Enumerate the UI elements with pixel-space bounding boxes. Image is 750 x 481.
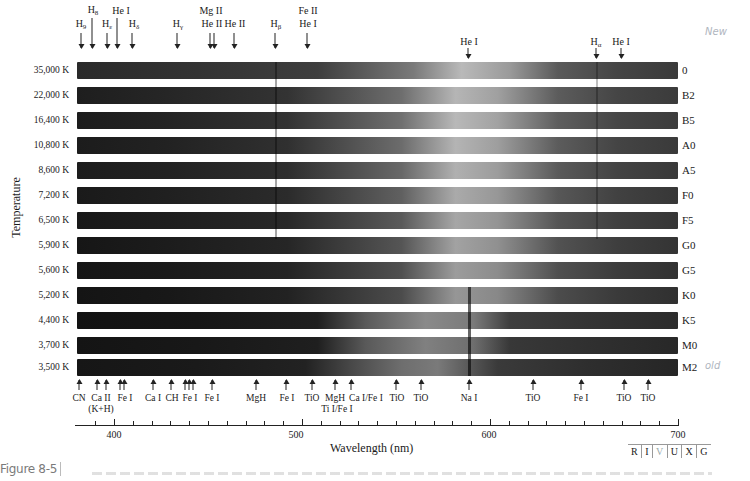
na-i-absorption-line	[468, 287, 471, 376]
arrow-up-icon	[256, 380, 257, 390]
spectrum-band-2	[77, 112, 678, 129]
temperature-label: 7,200 K	[38, 190, 69, 200]
label-mgh: MgH	[325, 393, 345, 403]
arrow-down-icon	[107, 33, 108, 48]
temperature-label: 3,700 K	[38, 340, 69, 350]
arrow-down-icon	[214, 33, 215, 48]
label-fe-i: Fe I	[279, 393, 294, 403]
wavelength-band-legend: R I V U X G	[628, 444, 711, 458]
h-alpha-absorption-line	[596, 62, 598, 239]
arrow-up-icon	[153, 380, 154, 390]
tick-label-600: 600	[482, 429, 497, 440]
arrow-down-icon	[621, 48, 622, 58]
x-axis-tick	[565, 421, 566, 426]
spectral-class-label: B2	[682, 89, 695, 101]
arrow-up-icon	[106, 380, 107, 390]
arrow-up-icon	[212, 380, 213, 390]
x-axis-tick	[95, 421, 96, 426]
label-fe-i: Fe I	[117, 393, 132, 403]
temperature-label: 22,000 K	[34, 90, 69, 100]
x-axis-tick	[584, 421, 585, 426]
label-h-beta: Hβ	[271, 18, 282, 33]
tick-label-500: 500	[289, 429, 304, 440]
x-axis-tick	[622, 421, 623, 426]
label-h9: H9	[76, 18, 87, 33]
x-axis-tick	[452, 421, 453, 426]
x-axis-tick	[659, 421, 660, 426]
label-k-h: (K+H)	[88, 404, 113, 414]
x-axis-tick	[603, 421, 604, 426]
label-ca-i-fe-i: Ca I/Fe I	[349, 393, 383, 403]
band-v: V	[653, 445, 668, 458]
x-axis-tick	[114, 419, 115, 426]
spectrum-band-7	[77, 237, 678, 254]
label-ti-i-fe-i: Ti I/Fe I	[321, 404, 352, 414]
x-axis-tick	[509, 421, 510, 426]
label-h8: H8	[88, 4, 99, 19]
temperature-label: 4,400 K	[38, 315, 69, 325]
temperature-label: 5,900 K	[38, 240, 69, 250]
label-na-i: Na I	[461, 393, 478, 403]
spectral-class-label: 0	[682, 64, 688, 76]
label-ch: CH	[165, 393, 178, 403]
arrow-up-icon	[171, 380, 172, 390]
band-i: I	[642, 445, 653, 458]
x-axis-tick	[227, 421, 228, 426]
x-axis-tick	[264, 421, 265, 426]
spectral-class-label: K5	[682, 314, 695, 326]
x-axis-tick	[640, 421, 641, 426]
label-mg-ii: Mg II	[199, 5, 222, 16]
arrow-up-icon	[79, 380, 80, 390]
caption-text-faded	[92, 472, 712, 475]
tick-label-400: 400	[107, 429, 122, 440]
spectrum-band-0	[77, 62, 678, 79]
h-beta-absorption-line	[275, 62, 277, 239]
arrow-up-icon	[533, 380, 534, 390]
arrow-down-icon	[81, 33, 82, 48]
temperature-label: 10,800 K	[34, 140, 69, 150]
arrow-down-icon	[92, 18, 93, 48]
arrow-up-icon	[97, 380, 98, 390]
handwritten-note-new: New	[705, 26, 727, 37]
x-axis-tick	[678, 419, 679, 426]
label-he-i: He I	[112, 5, 130, 16]
label-ca-i: Ca I	[145, 393, 161, 403]
handwritten-note-old: old	[705, 360, 720, 371]
x-axis-tick	[546, 421, 547, 426]
x-axis-tick	[471, 421, 472, 426]
x-axis-tick	[396, 421, 397, 426]
temperature-label: 5,600 K	[38, 265, 69, 275]
label-fe-i: Fe I	[573, 393, 588, 403]
band-u: U	[668, 445, 683, 458]
arrow-down-icon	[234, 33, 235, 48]
label-tio: TiO	[526, 393, 541, 403]
label-h-delta: Hδ	[129, 18, 140, 33]
spectral-class-label: G0	[682, 239, 695, 251]
spectrum-band-1	[77, 87, 678, 104]
temperature-label: 16,400 K	[34, 115, 69, 125]
arrow-down-icon	[275, 33, 276, 48]
arrow-down-icon	[177, 33, 178, 48]
arrow-up-icon	[124, 380, 125, 390]
x-axis-tick	[246, 421, 247, 426]
x-axis-tick	[170, 421, 171, 426]
temperature-label: 6,500 K	[38, 215, 69, 225]
arrow-up-icon	[351, 380, 352, 390]
arrow-down-icon	[307, 33, 308, 48]
spectral-class-label: F5	[682, 214, 694, 226]
arrow-down-icon	[132, 33, 133, 48]
label-tio: TiO	[641, 393, 656, 403]
label-tio: TiO	[414, 393, 429, 403]
label-he-ii: He II	[202, 18, 223, 29]
label-he-i: He I	[612, 36, 630, 47]
x-axis-tick	[133, 421, 134, 426]
x-axis-tick	[528, 421, 529, 426]
x-axis-tick	[152, 421, 153, 426]
x-axis-tick	[208, 421, 209, 426]
figure-caption-label: Figure 8-5	[0, 462, 61, 476]
arrow-up-icon	[286, 380, 287, 390]
y-axis-label: Temperature	[9, 177, 24, 237]
label-he-i: He I	[299, 18, 317, 29]
label-cn: CN	[72, 393, 85, 403]
arrow-up-icon	[396, 380, 397, 390]
